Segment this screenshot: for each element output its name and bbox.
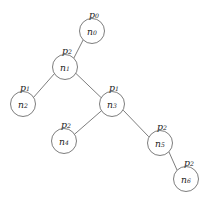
node-label-sub-n5: 5 xyxy=(161,141,165,148)
node-label-sub-n4: 4 xyxy=(64,139,69,146)
node-label-sub-n2: 2 xyxy=(23,102,28,109)
p-label-sub-n3: 1 xyxy=(115,85,119,92)
node-n6[interactable]: n6 xyxy=(174,167,199,192)
node-n2[interactable]: n2 xyxy=(11,92,36,117)
p-label-sub-n5: 2 xyxy=(162,124,167,131)
p-label-n1: p2 xyxy=(62,45,72,56)
node-label-sub-n1: 1 xyxy=(66,65,70,72)
edge-n1-n3 xyxy=(76,74,101,98)
tree-diagram-canvas: n0n1n2n3n4n5n6 p0p2p1p1p2p2p2 xyxy=(0,0,213,204)
node-n0[interactable]: n0 xyxy=(80,19,105,44)
edge-n3-n5 xyxy=(124,111,149,137)
p-label-n5: p2 xyxy=(157,121,167,132)
tree-graph-svg: n0n1n2n3n4n5n6 p0p2p1p1p2p2p2 xyxy=(0,0,213,204)
p-label-sub-n0: 0 xyxy=(95,12,99,19)
p-label-sub-n6: 2 xyxy=(189,160,194,167)
edge-n0-n1 xyxy=(74,40,83,58)
p-label-sub-n4: 2 xyxy=(66,122,71,129)
edge-n1-n2 xyxy=(34,74,54,97)
edge-n3-n4 xyxy=(75,111,101,134)
p-label-sub-n2: 1 xyxy=(26,85,30,92)
node-label-sub-n3: 3 xyxy=(113,102,117,109)
node-n5[interactable]: n5 xyxy=(148,131,173,156)
node-n1[interactable]: n1 xyxy=(53,55,78,80)
p-label-n0: p0 xyxy=(89,9,99,20)
p-label-n6: p2 xyxy=(184,157,194,168)
node-label-sub-n0: 0 xyxy=(93,29,97,36)
node-n4[interactable]: n4 xyxy=(52,129,77,154)
nodes-group: n0n1n2n3n4n5n6 xyxy=(11,19,199,192)
p-label-n2: p1 xyxy=(20,82,30,93)
p-label-sub-n1: 2 xyxy=(67,48,72,55)
edge-n5-n6 xyxy=(169,152,177,170)
node-label-sub-n6: 6 xyxy=(187,177,191,184)
p-label-n4: p2 xyxy=(61,119,71,130)
node-n3[interactable]: n3 xyxy=(100,92,125,117)
p-label-n3: p1 xyxy=(109,82,119,93)
